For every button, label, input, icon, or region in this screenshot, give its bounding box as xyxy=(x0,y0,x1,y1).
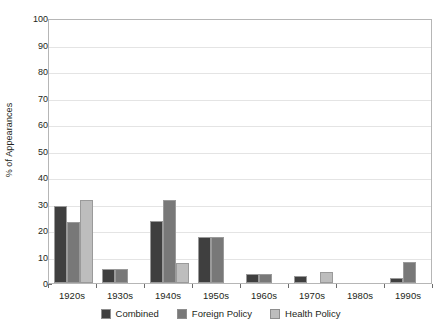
y-tick-label: 50 xyxy=(26,147,48,156)
bar xyxy=(67,222,80,283)
x-tick-label: 1990s xyxy=(395,290,421,301)
legend-item[interactable]: Foreign Policy xyxy=(177,308,252,319)
y-axis: 0102030405060708090100 xyxy=(16,19,48,284)
x-tick-mark xyxy=(432,284,433,288)
bar-group xyxy=(97,20,145,283)
legend-label: Health Policy xyxy=(285,308,340,319)
x-tick-mark xyxy=(96,284,97,288)
bar xyxy=(246,274,259,283)
x-tick-label: 1970s xyxy=(299,290,325,301)
bar-group xyxy=(385,20,433,283)
bar xyxy=(163,200,176,283)
y-tick-label: 80 xyxy=(26,68,48,77)
bar xyxy=(320,272,333,283)
x-tick-label: 1940s xyxy=(155,290,181,301)
y-axis-title-text: % of Appearances xyxy=(4,103,14,178)
x-tick-mark xyxy=(336,284,337,288)
chart-container: % of Appearances 0102030405060708090100 … xyxy=(0,0,441,332)
x-tick-mark xyxy=(48,284,49,288)
x-tick-mark xyxy=(384,284,385,288)
x-tick-label: 1950s xyxy=(203,290,229,301)
y-tick-label: 70 xyxy=(26,94,48,103)
legend-item[interactable]: Health Policy xyxy=(270,308,340,319)
y-axis-title: % of Appearances xyxy=(2,0,16,280)
bar xyxy=(403,262,416,283)
bar xyxy=(102,269,115,283)
x-axis: 1920s1930s1940s1950s1960s1970s1980s1990s xyxy=(48,284,432,306)
bar xyxy=(176,263,189,283)
x-tick-mark xyxy=(288,284,289,288)
legend-swatch-icon xyxy=(177,309,187,319)
y-tick-label: 30 xyxy=(26,200,48,209)
y-tick-label: 90 xyxy=(26,41,48,50)
bar xyxy=(198,237,211,283)
bar xyxy=(390,278,403,283)
x-tick-label: 1920s xyxy=(59,290,85,301)
legend-swatch-icon xyxy=(270,309,280,319)
plot-area xyxy=(48,19,432,284)
bar-group xyxy=(289,20,337,283)
x-tick-label: 1930s xyxy=(107,290,133,301)
bar-group xyxy=(145,20,193,283)
x-tick-mark xyxy=(144,284,145,288)
bar xyxy=(54,206,67,283)
legend-label: Foreign Policy xyxy=(192,308,252,319)
y-tick-label: 100 xyxy=(26,15,48,24)
x-tick-label: 1980s xyxy=(347,290,373,301)
chart-legend: CombinedForeign PolicyHealth Policy xyxy=(0,308,441,319)
bar xyxy=(150,221,163,283)
bar xyxy=(115,269,128,283)
bar-group xyxy=(49,20,97,283)
bar-group xyxy=(193,20,241,283)
legend-swatch-icon xyxy=(101,309,111,319)
bar-group xyxy=(337,20,385,283)
legend-item[interactable]: Combined xyxy=(101,308,159,319)
bar xyxy=(259,274,272,283)
y-tick-label: 0 xyxy=(26,280,48,289)
y-tick-label: 20 xyxy=(26,227,48,236)
y-tick-label: 60 xyxy=(26,121,48,130)
bar-group xyxy=(241,20,289,283)
bar xyxy=(211,237,224,283)
x-tick-mark xyxy=(240,284,241,288)
y-tick-label: 10 xyxy=(26,253,48,262)
x-tick-mark xyxy=(192,284,193,288)
y-tick-label: 40 xyxy=(26,174,48,183)
x-tick-label: 1960s xyxy=(251,290,277,301)
bar xyxy=(80,200,93,283)
bar xyxy=(294,276,307,283)
legend-label: Combined xyxy=(116,308,159,319)
